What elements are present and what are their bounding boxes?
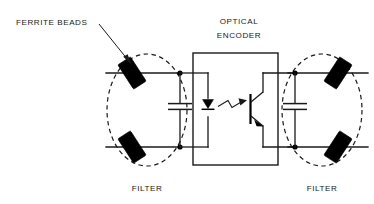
filter-label-right: FILTER	[307, 184, 338, 193]
led-emitter-symbol	[202, 100, 215, 110]
phototransistor-symbol	[251, 92, 264, 127]
schematic-diagram: FERRITE BEADS OPTICAL ENCODER FILTER FIL…	[0, 0, 374, 204]
ferrite-beads-callout	[99, 24, 132, 65]
schematic-canvas: FERRITE BEADS OPTICAL ENCODER FILTER FIL…	[0, 0, 374, 204]
optical-encoder-label-line1: OPTICAL	[220, 17, 258, 26]
filter-label-left: FILTER	[132, 184, 163, 193]
right-filter-group	[282, 54, 368, 166]
left-filter-group	[106, 54, 192, 166]
left-filter-capacitor	[168, 73, 192, 147]
optical-encoder-label-line2: ENCODER	[217, 31, 261, 40]
light-emission-arrow-icon	[218, 98, 247, 107]
optical-encoder-group	[180, 53, 295, 165]
ferrite-beads-label: FERRITE BEADS	[16, 18, 88, 27]
